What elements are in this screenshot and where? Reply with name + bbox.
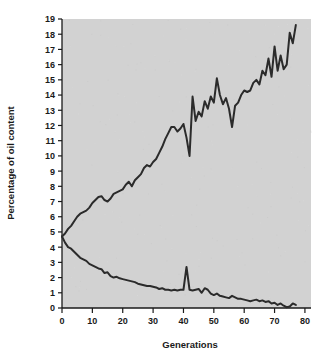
x-tick-label: 20 — [118, 316, 128, 326]
x-tick-label: 80 — [300, 316, 310, 326]
y-tick-label: 7 — [50, 197, 55, 207]
y-tick-label: 16 — [45, 60, 55, 70]
y-tick-label: 18 — [45, 30, 55, 40]
y-tick-label: 5 — [50, 227, 55, 237]
y-tick-label: 19 — [45, 14, 55, 24]
oil-content-chart-figure: 012345678910111213141516171819 010203040… — [0, 0, 332, 359]
x-tick-label: 70 — [270, 316, 280, 326]
x-tick-label: 60 — [239, 316, 249, 326]
y-tick-label: 13 — [45, 106, 55, 116]
x-tick-label: 10 — [87, 316, 97, 326]
y-tick-label: 9 — [50, 167, 55, 177]
x-tick-label: 50 — [209, 316, 219, 326]
x-axis-title: Generations — [162, 339, 217, 350]
plot-area-background — [62, 19, 312, 308]
y-tick-label: 0 — [50, 303, 55, 313]
x-tick-label: 40 — [178, 316, 188, 326]
y-tick-label: 1 — [50, 288, 55, 298]
y-tick-label: 14 — [45, 90, 55, 100]
y-tick-label: 3 — [50, 258, 55, 268]
y-axis-title: Percentage of oil content — [5, 105, 16, 219]
x-tick-label: 0 — [59, 316, 64, 326]
y-tick-label: 11 — [45, 136, 55, 146]
y-tick-label: 4 — [50, 243, 55, 253]
line-chart: 012345678910111213141516171819 010203040… — [0, 0, 332, 359]
y-tick-label: 8 — [50, 182, 55, 192]
y-tick-label: 15 — [45, 75, 55, 85]
y-tick-label: 12 — [45, 121, 55, 131]
y-tick-label: 10 — [45, 151, 55, 161]
x-tick-label: 30 — [148, 316, 158, 326]
y-tick-label: 2 — [50, 273, 55, 283]
y-tick-label: 17 — [45, 45, 55, 55]
y-tick-label: 6 — [50, 212, 55, 222]
